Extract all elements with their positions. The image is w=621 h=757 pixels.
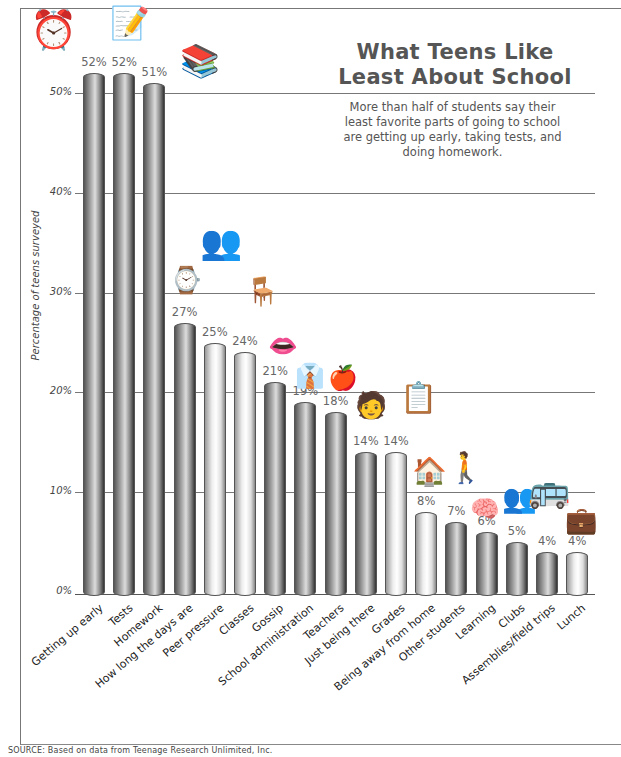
bar-value-label: 21% [255,364,295,378]
bar-value-label: 24% [225,334,265,348]
bar [143,83,165,596]
brain-icon: 🧠 [470,495,500,523]
books-icon: 📚 [180,42,220,80]
y-tick-label: 30% [30,286,72,297]
students-walking-icon: 🚶 [447,450,484,485]
y-tick-label: 10% [30,485,72,496]
student-desk-icon: 🪑 [245,275,280,308]
suit-icon: 👔 [295,362,325,390]
report-card-icon: 📋 [400,380,437,415]
briefcase-icon: 💼 [565,505,597,535]
bar [566,552,588,596]
chart-title: What Teens Like Least About School [330,40,580,90]
bar [83,73,105,596]
alarm-clock-icon: ⏰ [30,8,77,52]
y-tick-label: 40% [30,186,72,197]
wristwatch-icon: ⌚ [170,265,202,295]
bar [325,412,347,596]
bar-value-label: 51% [134,65,174,79]
school-bus-icon: 🚌 [528,470,570,510]
bar-value-label: 27% [165,305,205,319]
talking-mouth-icon: 👄 [268,332,298,360]
y-tick-label: 0% [30,585,72,596]
bar [204,343,226,597]
bar [264,382,286,596]
bar [506,542,528,596]
chart-subtitle: More than half of students say their lea… [340,100,565,160]
apple-icon: 🍎 [328,364,358,392]
student-sitting-icon: 🧑 [355,390,387,420]
bar [234,352,256,596]
paper-pencil-icon: 📝 [110,4,150,42]
y-tick-label: 20% [30,385,72,396]
bar [174,323,196,596]
house-icon: 🏠 [412,455,447,488]
bar [294,402,316,596]
bar [415,512,437,596]
source-note: SOURCE: Based on data from Teenage Resea… [8,746,273,755]
bar-value-label: 18% [316,394,356,408]
bar [536,552,558,596]
bar-value-label: 4% [557,534,597,548]
bar-value-label: 14% [376,434,416,448]
bar [385,452,407,596]
y-tick-label: 50% [30,86,72,97]
bar [113,73,135,596]
bar [355,452,377,596]
bar [476,532,498,596]
bar [445,522,467,596]
people-icon: 👥 [200,222,242,262]
